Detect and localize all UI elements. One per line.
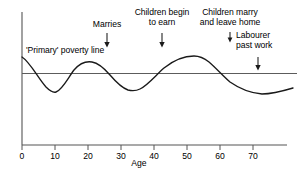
labourer-past-work-arrow [255,57,260,71]
income-curve [22,56,293,94]
x-tick-label-60: 60 [210,152,230,161]
children-begin-to-earn-arrow [159,33,164,48]
x-tick-label-10: 10 [45,152,65,161]
children-marry-and-leave-home-arrow [228,32,233,43]
x-tick-label-50: 50 [177,152,197,161]
x-axis-title: Age [117,159,161,168]
poverty-line-label: 'Primary' poverty line [26,46,156,56]
x-tick-label-70: 70 [243,152,263,161]
x-axis-ticks [22,145,253,150]
poverty-cycle-chart: 'Primary' poverty line Marries Children … [0,0,301,175]
labourer-past-work-label-line2: past work [236,41,300,51]
children-marry-and-leave-home-label-line2: and leave home [186,18,274,28]
x-tick-label-0: 0 [12,152,32,161]
x-tick-label-20: 20 [78,152,98,161]
